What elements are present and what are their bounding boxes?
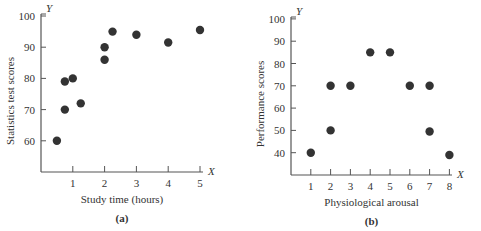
data-point	[406, 82, 414, 90]
data-point	[196, 26, 204, 34]
data-point	[386, 48, 394, 56]
data-point	[53, 137, 61, 145]
data-point	[61, 105, 69, 113]
x-tick-label: 1	[308, 180, 314, 192]
x-tick-label: 8	[447, 180, 453, 192]
data-point	[100, 43, 108, 51]
data-point	[164, 38, 172, 46]
data-point	[69, 74, 77, 82]
x-tick-label: 1	[70, 177, 76, 189]
y-tick-label: 100	[19, 10, 36, 22]
data-point	[61, 77, 69, 85]
data-point	[425, 82, 433, 90]
scatter-panel-b: 40506070809010012345678YXPhysiological a…	[254, 5, 465, 228]
y-tick-label: 80	[24, 72, 36, 84]
panel-label: (a)	[116, 212, 129, 225]
data-point	[108, 27, 116, 35]
y-tick-label: 90	[274, 35, 286, 47]
x-tick-label: 4	[367, 180, 373, 192]
data-point	[307, 149, 315, 157]
x-axis-letter: X	[456, 168, 465, 180]
y-axis-letter: Y	[46, 2, 54, 14]
y-tick-label: 90	[24, 41, 36, 53]
panel-label: (b)	[365, 215, 379, 228]
figure-canvas: 6070809010012345YXStudy time (hours)Stat…	[0, 0, 481, 231]
x-tick-label: 5	[197, 177, 203, 189]
data-point	[77, 99, 85, 107]
x-axis-title: Study time (hours)	[81, 193, 164, 206]
x-axis-letter: X	[207, 165, 216, 177]
y-tick-label: 100	[269, 13, 286, 25]
data-point	[326, 126, 334, 134]
y-tick-label: 50	[274, 124, 286, 136]
y-tick-label: 60	[274, 102, 286, 114]
y-axis-letter: Y	[296, 5, 304, 17]
y-tick-label: 40	[274, 147, 286, 159]
y-tick-label: 80	[274, 58, 286, 70]
data-point	[425, 127, 433, 135]
data-point	[445, 151, 453, 159]
x-tick-label: 3	[134, 177, 140, 189]
scatter-panel-a: 6070809010012345YXStudy time (hours)Stat…	[4, 2, 216, 225]
x-tick-label: 6	[407, 180, 413, 192]
data-point	[132, 31, 140, 39]
x-tick-label: 4	[165, 177, 171, 189]
y-tick-label: 70	[274, 80, 286, 92]
y-tick-label: 70	[24, 104, 36, 116]
data-point	[100, 55, 108, 63]
x-tick-label: 2	[102, 177, 108, 189]
y-tick-label: 60	[24, 135, 36, 147]
x-tick-label: 3	[348, 180, 354, 192]
data-point	[366, 48, 374, 56]
data-point	[346, 82, 354, 90]
x-tick-label: 5	[387, 180, 393, 192]
x-axis-title: Physiological arousal	[324, 196, 418, 208]
data-point	[326, 82, 334, 90]
y-axis-title: Statistics test scores	[4, 57, 16, 145]
x-tick-label: 7	[427, 180, 433, 192]
y-axis-title: Performance scores	[254, 61, 266, 147]
x-tick-label: 2	[328, 180, 334, 192]
